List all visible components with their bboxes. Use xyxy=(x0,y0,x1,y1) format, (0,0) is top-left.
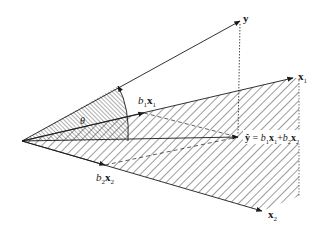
label-b2x2: b2x2 xyxy=(96,171,115,186)
label-y: y xyxy=(243,12,249,24)
label-x2: x2 xyxy=(268,208,278,223)
label-b1x1: b1x1 xyxy=(138,94,157,109)
label-x1: x1 xyxy=(298,70,308,85)
label-yhat-equation: ŷ = b1x1+b2x2 xyxy=(245,132,299,145)
label-theta: θ xyxy=(80,115,85,126)
column-space-plane xyxy=(22,78,299,211)
theta-angle-sector xyxy=(22,86,128,141)
diagram-canvas: y x1 x2 θ b1x1 b2x2 ŷ = b1x1+b2x2 xyxy=(0,0,324,233)
projection-diagram: y x1 x2 θ b1x1 b2x2 ŷ = b1x1+b2x2 xyxy=(0,0,324,233)
